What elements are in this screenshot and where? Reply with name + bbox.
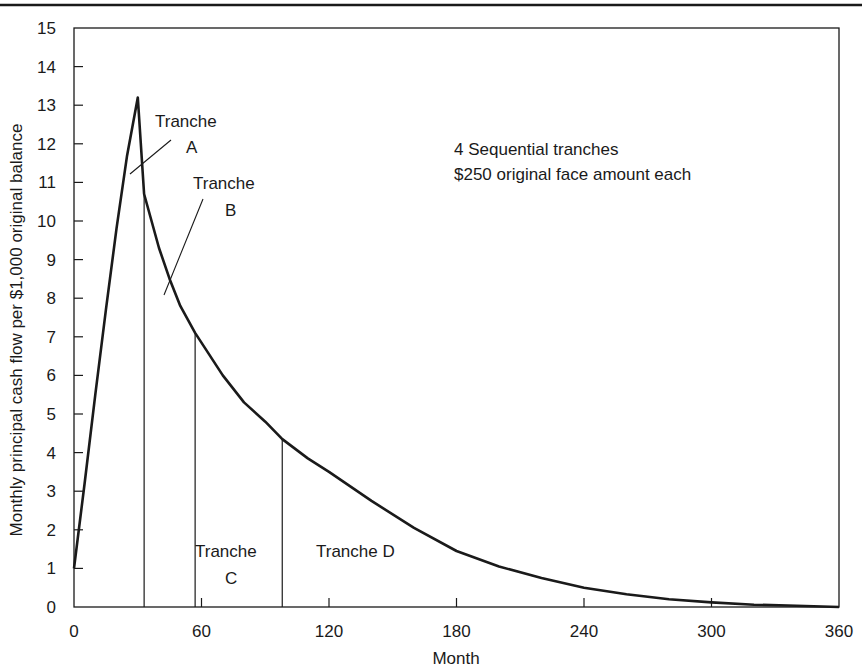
- y-axis: 0123456789101112131415: [37, 19, 83, 617]
- tranche-a-leader: [130, 140, 171, 174]
- x-tick-label: 60: [192, 622, 211, 641]
- y-tick-label: 11: [38, 173, 56, 192]
- tranche-d-label: Tranche D: [316, 542, 395, 561]
- tranche-b-label-line2: B: [225, 201, 236, 220]
- x-tick-label: 180: [442, 622, 470, 641]
- y-tick-label: 14: [37, 58, 56, 77]
- x-tick-label: 120: [315, 622, 343, 641]
- x-tick-label: 360: [825, 622, 853, 641]
- y-tick-label: 12: [37, 135, 56, 154]
- y-tick-label: 0: [47, 598, 56, 617]
- chart: 0123456789101112131415 06012018024030036…: [0, 0, 862, 669]
- tranche-c-label-line1: Tranche: [195, 542, 257, 561]
- y-tick-label: 3: [47, 482, 56, 501]
- y-axis-title: Monthly principal cash flow per $1,000 o…: [7, 124, 26, 537]
- y-tick-label: 15: [37, 19, 56, 38]
- y-tick-label: 4: [47, 444, 56, 463]
- y-tick-label: 8: [47, 289, 56, 308]
- y-tick-label: 9: [47, 251, 56, 270]
- y-tick-label: 10: [37, 212, 56, 231]
- tranche-c-label-line2: C: [225, 569, 237, 588]
- tranche-a-label-line2: A: [186, 138, 198, 157]
- y-tick-label: 5: [47, 405, 56, 424]
- note-line1: 4 Sequential tranches: [454, 140, 618, 159]
- x-tick-label: 240: [570, 622, 598, 641]
- x-tick-label: 0: [69, 622, 78, 641]
- y-tick-label: 6: [47, 366, 56, 385]
- y-tick-label: 13: [37, 96, 56, 115]
- y-tick-label: 1: [47, 559, 56, 578]
- tranche-a-label-line1: Tranche: [155, 112, 217, 131]
- y-tick-label: 2: [47, 521, 56, 540]
- note-line2: $250 original face amount each: [454, 165, 691, 184]
- x-tick-label: 300: [697, 622, 725, 641]
- tranche-b-leader: [164, 199, 203, 295]
- x-axis-title: Month: [432, 649, 479, 668]
- tranche-b-label-line1: Tranche: [193, 174, 255, 193]
- y-tick-label: 7: [47, 328, 56, 347]
